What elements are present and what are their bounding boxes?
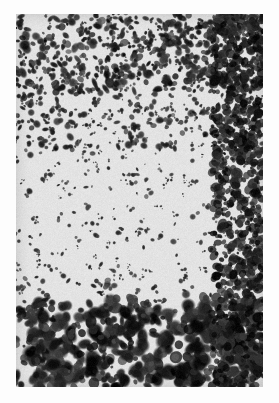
page-root <box>0 0 279 403</box>
figure-caption <box>16 389 263 401</box>
micrograph-image <box>16 14 263 387</box>
histology-photomicrograph <box>16 14 263 387</box>
